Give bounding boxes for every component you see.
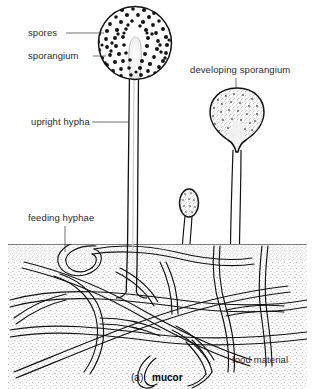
young-sporangium	[178, 188, 202, 244]
mucor-diagram-figure: spores sporangium upright hypha developi…	[0, 0, 317, 389]
label-developing-sporangium: developing sporangium	[190, 64, 290, 89]
caption-name: mucor	[152, 372, 183, 383]
label-upright-hypha-text: upright hypha	[31, 116, 90, 127]
label-sporangium-text: sporangium	[28, 50, 79, 61]
label-developing-sporangium-text: developing sporangium	[190, 64, 290, 75]
label-spores: spores	[28, 27, 104, 38]
label-food-material: food material	[232, 354, 288, 365]
food-material-substrate	[8, 244, 307, 389]
mature-sporangium	[96, 7, 174, 81]
label-upright-hypha: upright hypha	[31, 116, 129, 127]
label-spores-text: spores	[28, 27, 57, 38]
developing-sporangium	[205, 84, 269, 244]
figure-caption: (a) mucor	[131, 372, 183, 383]
label-sporangium: sporangium	[28, 50, 106, 61]
mucor-diagram-svg: spores sporangium upright hypha developi…	[0, 0, 317, 389]
label-feeding-hyphae-text: feeding hyphae	[28, 212, 94, 223]
caption-prefix: (a)	[131, 372, 143, 383]
label-food-material-text: food material	[232, 354, 288, 365]
